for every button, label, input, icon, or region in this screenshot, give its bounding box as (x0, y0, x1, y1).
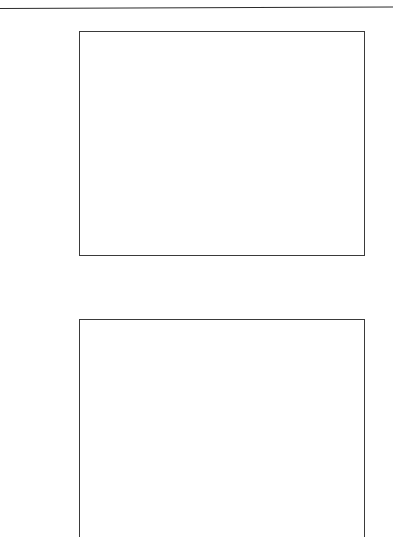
plot-area-top (79, 31, 365, 256)
bar-series-top (80, 32, 364, 255)
chart-panel-top (0, 22, 393, 290)
x-axis-top (79, 256, 365, 262)
header-rule (0, 6, 393, 9)
bar-series-bottom (80, 320, 364, 537)
chart-panel-bottom (0, 310, 393, 537)
plot-area-bottom (79, 319, 365, 537)
